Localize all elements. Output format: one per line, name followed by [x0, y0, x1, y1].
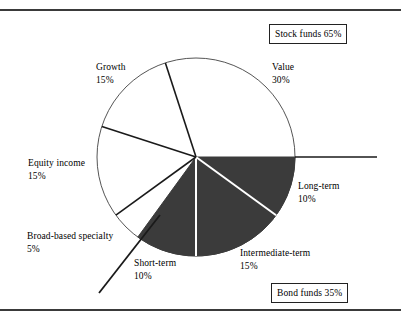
- pie-label-short-term: Short-term 10%: [134, 257, 176, 282]
- pie-label-long-term: Long-term 10%: [298, 180, 340, 205]
- pie-chart-figure: Value 30% Growth 15% Equity income 15% B…: [0, 0, 401, 322]
- pie-label-value-percent: 30%: [272, 74, 294, 87]
- pie-label-intermediate-term-percent: 15%: [240, 260, 310, 273]
- pie-label-long-term-percent: 10%: [298, 193, 340, 206]
- pie-label-long-term-name: Long-term: [298, 180, 340, 193]
- callout-bond-funds: Bond funds 35%: [271, 283, 348, 303]
- pie-label-growth: Growth 15%: [96, 61, 126, 86]
- pie-label-growth-name: Growth: [96, 61, 126, 74]
- pie-label-short-term-percent: 10%: [134, 270, 176, 283]
- pie-label-broad-based-specialty-name: Broad-based specialty: [27, 230, 113, 243]
- pie-label-equity-income-percent: 15%: [28, 170, 85, 183]
- pie-label-growth-percent: 15%: [96, 74, 126, 87]
- pie-label-intermediate-term-name: Intermediate-term: [240, 247, 310, 260]
- pie-label-broad-based-specialty-percent: 5%: [27, 243, 113, 256]
- pie-label-value-name: Value: [272, 61, 294, 74]
- pie-label-short-term-name: Short-term: [134, 257, 176, 270]
- pie-label-broad-based-specialty: Broad-based specialty 5%: [27, 230, 113, 255]
- pie-label-intermediate-term: Intermediate-term 15%: [240, 247, 310, 272]
- pie-label-equity-income: Equity income 15%: [28, 157, 85, 182]
- callout-stock-funds: Stock funds 65%: [269, 24, 347, 44]
- pie-label-equity-income-name: Equity income: [28, 157, 85, 170]
- pie-label-value: Value 30%: [272, 61, 294, 86]
